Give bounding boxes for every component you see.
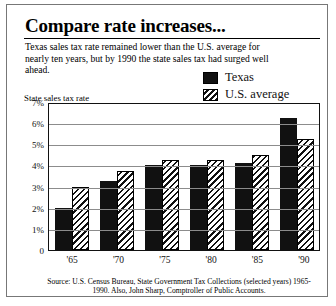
x-tick-label: '80 [191,255,231,269]
source-note: Source: U.S. Census Bureau, State Govern… [43,277,315,296]
x-tick-label: '65 [52,255,92,269]
y-tick-label: 2% [32,204,44,214]
y-tick-label: 3% [32,183,44,193]
gridline [49,145,319,146]
bar-group [277,104,316,250]
y-tick-label: 1% [32,225,44,235]
bar-group [98,104,137,250]
bar-us-average [162,160,179,250]
bar-texas [235,163,252,250]
gridline [49,188,319,189]
bar-us-average [207,160,224,250]
title-divider [24,38,320,39]
y-tick-label: 0 [40,246,45,256]
y-tick-label: 4% [32,161,44,171]
gridline [49,230,319,231]
x-tick-label: '75 [145,255,185,269]
chart-legend: Texas U.S. average [203,69,333,103]
x-tick-label: '70 [98,255,138,269]
bar-group [187,104,226,250]
gridline [49,124,319,125]
bar-groups [49,104,319,250]
chart-plot-area: 01%2%3%4%5%6%7% [24,103,320,253]
legend-label-texas: Texas [225,70,254,85]
bar-group [143,104,182,250]
legend-label-us-average: U.S. average [225,87,289,102]
x-tick-label: '90 [284,255,324,269]
legend-swatch-us-average-icon [203,89,218,101]
legend-item-us-average: U.S. average [203,86,333,103]
y-tick-label: 5% [32,140,44,150]
legend-item-texas: Texas [203,69,333,86]
bar-group [53,104,92,250]
plot-canvas [48,103,320,251]
y-axis-tick-labels: 01%2%3%4%5%6%7% [24,103,46,253]
bar-us-average [297,139,314,250]
page-title: Compare rate increases... [25,15,315,37]
bar-texas [100,181,117,250]
y-tick-label: 7% [32,98,44,108]
y-tick-label: 6% [32,119,44,129]
bar-group [232,104,271,250]
gridline [49,166,319,167]
bar-us-average [72,187,89,250]
gridline [49,209,319,210]
bar-us-average [117,171,134,250]
legend-swatch-texas-icon [203,72,218,84]
figure-frame: Compare rate increases... Texas sales ta… [6,4,328,297]
x-axis-tick-labels: '65'70'75'80'85'90 [48,255,327,269]
bar-us-average [252,155,269,250]
x-tick-label: '85 [237,255,277,269]
